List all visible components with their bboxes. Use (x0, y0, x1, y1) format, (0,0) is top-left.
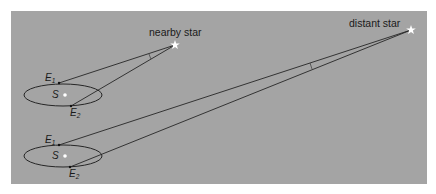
nearby-star-label: nearby star (149, 26, 202, 38)
sun-icon-bottom (63, 154, 67, 158)
parallax-diagram: S E1 E2 nearby star S E1 E2 distant star (0, 0, 436, 194)
distant-star-label: distant star (349, 17, 401, 29)
earth-e1-dot-top (58, 82, 60, 84)
sun-label-bottom: S (52, 150, 59, 161)
panel-background (11, 11, 427, 184)
sun-label-top: S (52, 89, 59, 100)
sun-icon-top (63, 93, 67, 97)
earth-e1-dot-bottom (58, 144, 60, 146)
